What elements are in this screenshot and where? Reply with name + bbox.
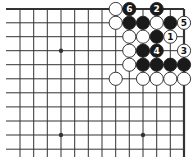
black-stone[interactable] [164, 58, 177, 71]
black-stone-icon [164, 16, 177, 29]
white-stone-icon [150, 16, 163, 29]
white-stone-move-5[interactable]: 5 [177, 16, 190, 29]
white-stone[interactable] [150, 72, 163, 85]
white-stone-icon [123, 44, 136, 57]
black-stone-move-2[interactable]: 2 [150, 2, 163, 15]
white-stone[interactable] [123, 44, 136, 57]
white-stone-icon [109, 72, 122, 85]
move-number-label: 3 [181, 46, 187, 56]
black-stone-icon [177, 58, 190, 71]
black-stone-icon [164, 58, 177, 71]
black-stone-icon [136, 16, 149, 29]
black-stone-icon [136, 58, 149, 71]
white-stone-move-3[interactable]: 3 [177, 44, 190, 57]
black-stone[interactable] [136, 44, 149, 57]
star-point [141, 133, 145, 137]
move-number-label: 6 [126, 4, 132, 14]
white-stone-icon [136, 30, 149, 43]
black-stone-move-4[interactable]: 4 [150, 44, 163, 57]
black-stone-icon [136, 44, 149, 57]
black-stone[interactable] [150, 58, 163, 71]
white-stone[interactable] [123, 58, 136, 71]
white-stone-icon [109, 2, 122, 15]
black-stone-icon [150, 58, 163, 71]
black-stone[interactable] [150, 30, 163, 43]
white-stone-icon [109, 16, 122, 29]
star-point [59, 49, 63, 53]
white-stone[interactable] [150, 16, 163, 29]
white-stone[interactable] [136, 30, 149, 43]
black-stone-icon [123, 16, 136, 29]
black-stone[interactable] [177, 58, 190, 71]
black-stone-move-6[interactable]: 6 [123, 2, 136, 15]
move-number-label: 2 [154, 4, 160, 14]
white-stone-icon [177, 72, 190, 85]
white-stone[interactable] [109, 2, 122, 15]
black-stone[interactable] [123, 16, 136, 29]
move-number-label: 5 [181, 18, 187, 28]
white-stone-icon [136, 72, 149, 85]
black-stone[interactable] [136, 16, 149, 29]
white-stone-icon [150, 72, 163, 85]
star-point [59, 133, 63, 137]
black-stone-icon [150, 30, 163, 43]
white-stone[interactable] [109, 16, 122, 29]
black-stone[interactable] [136, 58, 149, 71]
white-stone-icon [123, 58, 136, 71]
white-stone[interactable] [123, 30, 136, 43]
white-stone-icon [123, 30, 136, 43]
move-number-label: 1 [167, 32, 173, 42]
white-stone[interactable] [164, 72, 177, 85]
stones-layer: 625143 [109, 2, 190, 85]
white-stone-icon [164, 72, 177, 85]
white-stone[interactable] [136, 72, 149, 85]
move-number-label: 4 [154, 46, 160, 56]
go-board[interactable]: 625143 [0, 0, 195, 164]
white-stone[interactable] [177, 72, 190, 85]
black-stone[interactable] [164, 16, 177, 29]
white-stone-move-1[interactable]: 1 [164, 30, 177, 43]
white-stone[interactable] [109, 72, 122, 85]
